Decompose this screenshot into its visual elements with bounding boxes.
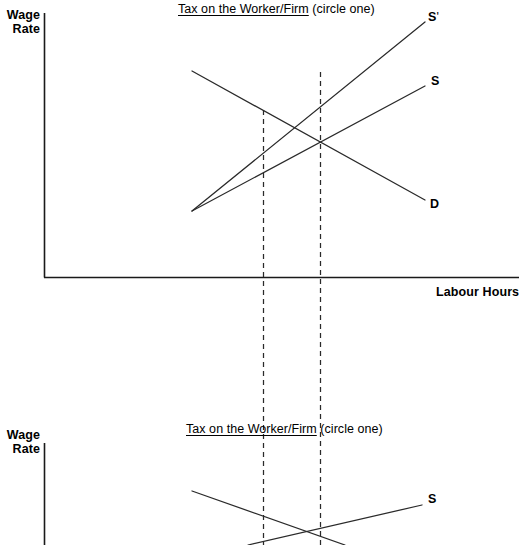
supply-curve xyxy=(192,86,425,211)
bottom-chart-title-underlined: Tax on the Worker/Firm xyxy=(186,422,317,436)
worksheet-page: Wage Rate Tax on the Worker/Firm (circle… xyxy=(0,0,522,545)
top-supply-shifted-prime-mark: ' xyxy=(437,10,440,24)
bottom-chart-title: Tax on the Worker/Firm (circle one) xyxy=(186,422,383,436)
bottom-y-axis-label-line2: Rate xyxy=(2,442,40,456)
bottom-supply-label: S xyxy=(428,492,437,506)
supply-shifted-curve xyxy=(192,22,425,211)
bottom-chart-title-rest: (circle one) xyxy=(317,422,383,436)
diagram-canvas xyxy=(0,0,522,545)
top-chart-title-rest: (circle one) xyxy=(309,2,375,16)
demand-curve xyxy=(192,71,425,200)
bottom-y-axis-label: Wage Rate xyxy=(2,428,40,456)
top-y-axis-label: Wage Rate xyxy=(2,8,40,36)
top-supply-shifted-label-text: S xyxy=(428,10,437,24)
top-supply-shifted-label: S' xyxy=(428,10,439,24)
bottom-panel-group xyxy=(45,443,423,545)
top-y-axis-label-line1: Wage xyxy=(2,8,40,22)
bottom-demand-curve xyxy=(192,491,345,545)
top-panel-group xyxy=(44,13,519,278)
top-chart-title-underlined: Tax on the Worker/Firm xyxy=(178,2,309,16)
top-demand-label: D xyxy=(430,197,439,211)
droplines-group xyxy=(264,72,321,545)
bottom-y-axis-label-line1: Wage xyxy=(2,428,40,442)
top-supply-label: S xyxy=(431,74,440,88)
bottom-supply-curve xyxy=(248,505,422,545)
top-y-axis-label-line2: Rate xyxy=(2,22,40,36)
top-chart-title: Tax on the Worker/Firm (circle one) xyxy=(178,2,375,16)
top-x-axis-label: Labour Hours xyxy=(436,285,519,299)
